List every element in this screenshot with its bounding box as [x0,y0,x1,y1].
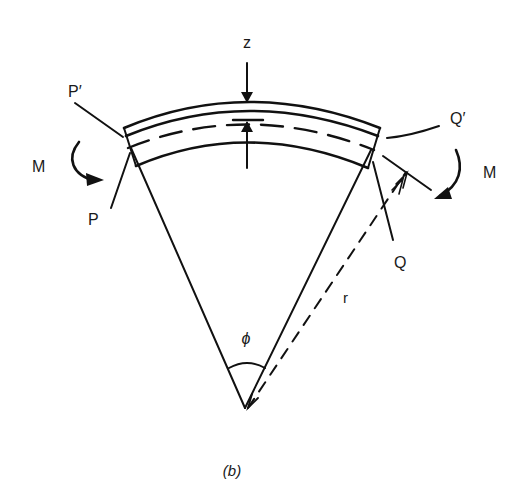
beam-bending-diagram: z P′ P Q′ Q M M r ϕ (b) [0,0,525,494]
p-prime-line [75,103,123,137]
moment-left-arrowhead [86,173,104,186]
moment-left-arrow [72,142,95,181]
neutral-axis-dashed [128,124,374,150]
label-r: r [343,289,348,306]
label-p: P [88,211,99,228]
label-q: Q [394,254,406,271]
beam-inner-surface [136,142,368,168]
sector-left-side [131,148,245,408]
label-m-right: M [483,164,496,181]
sector-right-side [245,150,371,408]
q-line [373,162,393,240]
label-q-prime: Q′ [450,110,465,127]
moment-right-arrow [440,150,460,196]
label-phi: ϕ [242,330,251,347]
q-prime-line [387,126,439,138]
p-line [111,153,130,208]
label-m-left: M [32,158,45,175]
figure-caption: (b) [223,462,241,479]
figure-canvas: z P′ P Q′ Q M M r ϕ (b) [0,0,525,494]
radius-r-dashed-line [248,172,406,408]
z-arrow-up-head [241,121,253,132]
angle-phi-arc [229,363,265,368]
label-p-prime: P′ [68,83,82,100]
label-z: z [243,34,251,51]
